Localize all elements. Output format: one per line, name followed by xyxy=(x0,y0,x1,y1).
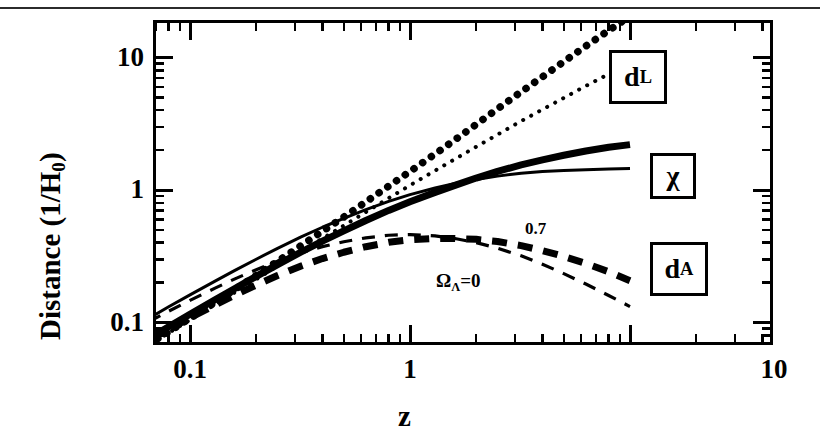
annotation-omega-symbol: Ω xyxy=(436,270,451,291)
y-tick-label-10: 10 xyxy=(84,44,144,71)
y-tick-label-0.1: 0.1 xyxy=(62,309,144,336)
y-axis-title-subscript: 0 xyxy=(48,162,69,172)
curve-d-a-omega-lambda-0-7- xyxy=(149,238,630,340)
x-tick-label-1: 1 xyxy=(380,356,440,383)
curve-label-da-text: d xyxy=(665,255,681,283)
data-curves xyxy=(149,16,630,345)
curve-label-da: dA xyxy=(650,242,708,296)
annotation-omega-lambda-zero: ΩΛ=0 xyxy=(436,271,481,293)
annotation-omega-value: =0 xyxy=(460,270,480,291)
y-axis-title: Distance (1/H0) xyxy=(34,152,70,340)
x-tick-label-0.1: 0.1 xyxy=(145,356,235,383)
curve-label-chi-text: χ xyxy=(667,162,680,190)
annotation-lambda-subscript: Λ xyxy=(451,280,460,294)
y-axis-title-close: ) xyxy=(34,152,66,162)
curve-label-dl: dL xyxy=(609,50,667,104)
curve-label-da-subscript: A xyxy=(680,260,693,278)
figure-canvas: 10 1 0.1 0.1 1 10 Distance (1/H0) z dL χ… xyxy=(0,0,820,445)
x-axis-title: z xyxy=(398,400,411,433)
curve-label-dl-text: d xyxy=(624,63,640,91)
curve-label-chi: χ xyxy=(650,153,696,199)
annotation-omega-0.7: 0.7 xyxy=(525,220,546,237)
y-tick-label-1: 1 xyxy=(84,176,144,203)
y-axis-title-text: Distance (1/H xyxy=(34,172,66,340)
curve-label-dl-subscript: L xyxy=(640,68,652,86)
x-tick-label-10: 10 xyxy=(744,356,804,383)
